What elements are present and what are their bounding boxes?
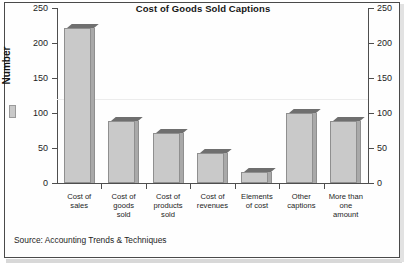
y-axis-right <box>368 8 369 184</box>
x-category-tick <box>235 184 236 189</box>
bar-front-face <box>64 28 91 183</box>
y-tick-label-right: 200 <box>377 39 405 48</box>
bar <box>286 109 313 183</box>
y-tick-label-right: 0 <box>377 179 405 188</box>
y-tick-label-left: 250 <box>8 4 48 13</box>
bar-side-face <box>357 121 361 183</box>
y-tick-right <box>369 8 374 9</box>
y-tick-right <box>369 113 374 114</box>
y-tick-label-right: 150 <box>377 74 405 83</box>
bar-front-face <box>286 113 313 183</box>
y-tick-label-left: 50 <box>8 144 48 153</box>
x-category-label: Cost of products sold <box>146 192 190 219</box>
bar-side-face <box>268 172 272 183</box>
bar <box>330 117 357 183</box>
source-note: Source: Accounting Trends & Techniques <box>14 235 167 245</box>
x-category-tick <box>146 184 147 189</box>
bar <box>64 24 91 183</box>
x-category-label: More than one amount <box>324 192 368 219</box>
y-tick-right <box>369 43 374 44</box>
bar-front-face <box>153 133 180 183</box>
bar-front-face <box>108 121 135 183</box>
x-category-label: Elements of cost <box>235 192 279 210</box>
bar-side-face <box>313 113 317 183</box>
bar-side-face <box>91 28 95 183</box>
x-category-label: Cost of revenues <box>190 192 234 210</box>
bar <box>153 129 180 183</box>
x-category-tick <box>190 184 191 189</box>
y-tick-right <box>369 78 374 79</box>
y-tick-left <box>52 148 57 149</box>
bar-side-face <box>180 133 184 183</box>
x-category-label: Other captions <box>279 192 323 210</box>
bar-front-face <box>330 121 357 183</box>
y-tick-left <box>52 43 57 44</box>
bar <box>241 168 268 183</box>
x-axis <box>57 183 369 184</box>
x-category-tick <box>279 184 280 189</box>
y-tick-label-left: 100 <box>8 109 48 118</box>
y-tick-left <box>52 113 57 114</box>
y-tick-label-right: 100 <box>377 109 405 118</box>
y-tick-label-left: 200 <box>8 39 48 48</box>
bar <box>197 149 224 183</box>
y-tick-label-right: 250 <box>377 4 405 13</box>
y-tick-left <box>52 8 57 9</box>
x-category-label: Cost of goods sold <box>101 192 145 219</box>
y-tick-left <box>52 78 57 79</box>
y-tick-left <box>52 183 57 184</box>
bar-front-face <box>197 153 224 183</box>
x-category-label: Cost of sales <box>57 192 101 210</box>
y-tick-label-right: 50 <box>377 144 405 153</box>
x-category-tick <box>324 184 325 189</box>
bar-front-face <box>241 172 268 183</box>
x-category-tick <box>101 184 102 189</box>
faint-gridline <box>57 99 368 100</box>
bar-side-face <box>135 121 139 183</box>
y-tick-label-left: 150 <box>8 74 48 83</box>
bar-side-face <box>224 153 228 183</box>
chart-figure: Cost of Goods Sold Captions Number 00505… <box>0 0 406 269</box>
y-tick-right <box>369 183 374 184</box>
bar <box>108 117 135 183</box>
y-tick-label-left: 0 <box>8 179 48 188</box>
figure-shadow-bottom <box>6 259 402 263</box>
y-tick-right <box>369 148 374 149</box>
